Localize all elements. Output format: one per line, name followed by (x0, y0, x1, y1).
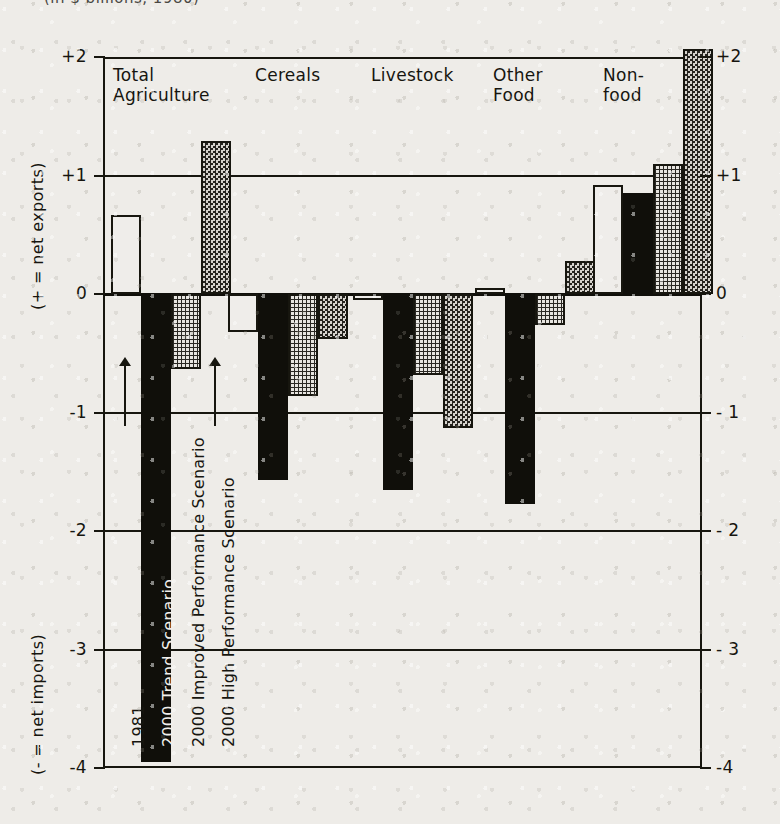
tick-label-left--1: -1 (47, 402, 87, 422)
bar (683, 49, 713, 294)
tick-label-left-2: +2 (47, 46, 87, 66)
tick-label-left--2: -2 (47, 520, 87, 540)
tick-label-right-2: +2 (716, 46, 756, 66)
legend-label-0: 1981 (129, 705, 148, 747)
tick-mark-left-0 (94, 293, 105, 295)
tick-label-left--4: -4 (47, 757, 87, 777)
category-header-1: Cereals (255, 65, 321, 85)
tick-label-left-0: 0 (47, 283, 87, 303)
category-header-4: Non- food (603, 65, 644, 105)
bar (443, 294, 473, 428)
bar (171, 294, 201, 369)
category-header-3: Other Food (493, 65, 543, 105)
legend-pointer-arrow-icon (209, 357, 221, 419)
caption-clipped: (in $ billions, 1980) (44, 0, 384, 5)
bar (623, 193, 653, 294)
y-axis-label-net-exports: (+ = net exports) (28, 162, 47, 310)
tick-mark-left--1 (94, 412, 105, 414)
bar (653, 164, 683, 294)
caption-text: (in $ billions, 1980) (44, 0, 384, 5)
legend-pointer-arrow-icon (119, 357, 131, 419)
tick-mark-left--3 (94, 649, 105, 651)
tick-mark-left--2 (94, 530, 105, 532)
tick-mark-right--2 (700, 530, 711, 532)
legend-label-3: 2000 High Performance Scenario (219, 477, 238, 747)
tick-mark-right-0 (700, 293, 711, 295)
category-header-0: Total Agriculture (113, 65, 210, 105)
bar (353, 294, 383, 300)
chart-plot-area: 19812000 Trend Scenario2000 Improved Per… (103, 57, 702, 768)
tick-mark-left-1 (94, 175, 105, 177)
tick-label-right-1: +1 (716, 165, 756, 185)
tick-label-right--4: -4 (716, 757, 756, 777)
bar (565, 261, 595, 294)
tick-label-right--2: - 2 (716, 520, 756, 540)
bar (593, 185, 623, 294)
tick-label-right-0: 0 (716, 283, 756, 303)
bar (111, 215, 141, 294)
legend-label-2: 2000 Improved Performance Scenario (189, 437, 208, 747)
tick-mark-left-2 (94, 56, 105, 58)
tick-label-left--3: -3 (47, 639, 87, 659)
y-axis-label-net-imports: (- = net imports) (28, 634, 47, 775)
category-header-2: Livestock (371, 65, 454, 85)
tick-mark-right--1 (700, 412, 711, 414)
legend-label-1: 2000 Trend Scenario (159, 579, 178, 747)
bar (201, 141, 231, 294)
tick-mark-right-2 (700, 56, 711, 58)
tick-label-right--1: - 1 (716, 402, 756, 422)
bar (413, 294, 443, 375)
bar (228, 294, 258, 332)
bar (258, 294, 288, 480)
plot-frame-bottom (103, 766, 702, 768)
bar (383, 294, 413, 490)
bar (505, 294, 535, 504)
tick-mark-right--4 (700, 767, 711, 769)
plot-frame-top (103, 57, 702, 59)
bar (475, 288, 505, 294)
bar (318, 294, 348, 339)
gridline-1 (103, 175, 702, 177)
tick-label-right--3: - 3 (716, 639, 756, 659)
tick-mark-right--3 (700, 649, 711, 651)
tick-mark-right-1 (700, 175, 711, 177)
tick-mark-left--4 (94, 767, 105, 769)
bar (535, 294, 565, 325)
tick-label-left-1: +1 (47, 165, 87, 185)
bar (288, 294, 318, 396)
